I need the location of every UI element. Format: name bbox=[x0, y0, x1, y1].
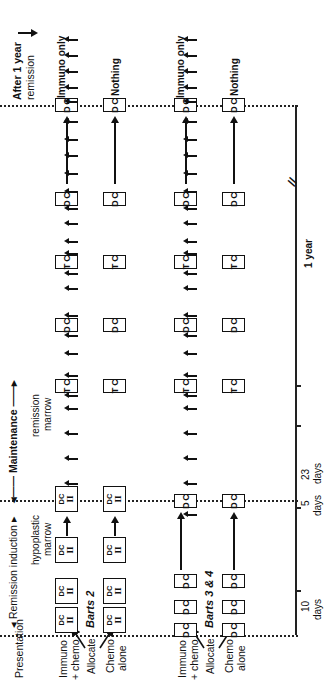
box-dc: DC bbox=[222, 98, 245, 112]
up-arrow-icon bbox=[66, 522, 68, 536]
box-dc-ii: DCII bbox=[55, 486, 78, 512]
box-tc: TC bbox=[222, 255, 245, 269]
box-dc-ii: DCII bbox=[103, 578, 126, 604]
box-dc: DC bbox=[174, 623, 197, 637]
immunotherapy-arrow-icon bbox=[64, 98, 78, 106]
box-dc-ii: DCII bbox=[103, 537, 126, 563]
box-tc: TC bbox=[174, 379, 197, 393]
box-tc: TC bbox=[222, 379, 245, 393]
immuno-only-label: Immuno only bbox=[175, 36, 186, 98]
immunotherapy-arrow-icon bbox=[64, 455, 78, 463]
immunotherapy-arrow-icon bbox=[183, 350, 197, 358]
timeline-tick bbox=[295, 425, 301, 427]
box-dc: DC bbox=[174, 318, 197, 332]
immunotherapy-arrow-icon bbox=[183, 238, 197, 246]
box-dc: DC bbox=[174, 600, 197, 614]
up-arrow-icon bbox=[180, 518, 182, 570]
box-dc-ii: DCII bbox=[55, 578, 78, 604]
immunotherapy-arrow-icon bbox=[64, 188, 78, 196]
up-arrow-icon bbox=[66, 122, 68, 184]
immunotherapy-arrow-icon bbox=[183, 285, 197, 293]
box-dc-ii: DCII bbox=[103, 607, 126, 633]
nothing-label: Nothing bbox=[229, 58, 240, 96]
box-dc-ii: DCII bbox=[103, 486, 126, 512]
immunotherapy-arrow-icon bbox=[64, 405, 78, 413]
allocate-arrows-icon bbox=[0, 0, 328, 691]
box-dc: DC bbox=[103, 98, 126, 112]
immunotherapy-arrow-icon bbox=[64, 238, 78, 246]
immunotherapy-arrow-icon bbox=[183, 98, 197, 106]
timeline-label-10: 10 bbox=[300, 601, 311, 612]
up-arrow-icon bbox=[114, 122, 116, 184]
up-arrow-icon bbox=[185, 122, 187, 184]
box-tc: TC bbox=[55, 379, 78, 393]
immunotherapy-arrow-icon bbox=[183, 480, 197, 488]
immunotherapy-arrow-icon bbox=[183, 430, 197, 438]
immunotherapy-arrow-icon bbox=[183, 405, 197, 413]
box-tc: TC bbox=[103, 379, 126, 393]
timeline-tick bbox=[295, 385, 301, 387]
immuno-only-label: Immuno only bbox=[56, 36, 67, 98]
immunotherapy-arrow-icon bbox=[64, 205, 78, 213]
box-dc: DC bbox=[222, 318, 245, 332]
immunotherapy-arrow-icon bbox=[64, 350, 78, 358]
box-tc: TC bbox=[103, 255, 126, 269]
immunotherapy-arrow-icon bbox=[183, 372, 197, 380]
immunotherapy-arrow-icon bbox=[183, 220, 197, 228]
immunotherapy-arrow-icon bbox=[64, 372, 78, 380]
immunotherapy-arrow-icon bbox=[183, 188, 197, 196]
immunotherapy-arrow-icon bbox=[64, 270, 78, 278]
timeline-label-23: 23 bbox=[300, 469, 311, 480]
barts34-label: Barts 3 & 4 bbox=[203, 571, 215, 628]
box-dc: DC bbox=[55, 318, 78, 332]
barts2-label: Barts 2 bbox=[84, 591, 96, 628]
immunotherapy-arrow-icon bbox=[183, 270, 197, 278]
timeline-tick bbox=[295, 590, 301, 592]
immunotherapy-arrow-icon bbox=[64, 392, 78, 400]
immunotherapy-arrow-icon bbox=[64, 220, 78, 228]
box-dc: DC bbox=[222, 623, 245, 637]
immunotherapy-arrow-icon bbox=[183, 250, 197, 258]
box-dc: DC bbox=[103, 318, 126, 332]
timeline-tick bbox=[295, 507, 301, 509]
nothing-label: Nothing bbox=[110, 58, 121, 96]
up-arrow-icon bbox=[233, 122, 235, 184]
immunotherapy-arrow-icon bbox=[183, 332, 197, 340]
box-dc: DC bbox=[222, 574, 245, 588]
box-dc: DC bbox=[103, 192, 126, 206]
box-dc: DC bbox=[222, 192, 245, 206]
timeline-label-1-year: 1 year bbox=[303, 239, 314, 268]
immunotherapy-arrow-icon bbox=[64, 312, 78, 320]
immunotherapy-arrow-icon bbox=[64, 332, 78, 340]
up-arrow-icon bbox=[233, 518, 235, 570]
immunotherapy-arrow-icon bbox=[183, 205, 197, 213]
immunotherapy-arrow-icon bbox=[183, 312, 197, 320]
box-dc: DC bbox=[222, 494, 245, 508]
immunotherapy-arrow-icon bbox=[64, 250, 78, 258]
timeline-label-5-days: days bbox=[312, 495, 323, 516]
box-dc: DC bbox=[222, 600, 245, 614]
immunotherapy-arrow-icon bbox=[64, 285, 78, 293]
immunotherapy-arrow-icon bbox=[183, 511, 197, 519]
timeline-label-10-days: days bbox=[312, 599, 323, 620]
timeline-label-5: 5 bbox=[300, 500, 311, 506]
immunotherapy-arrow-icon bbox=[64, 480, 78, 488]
immunotherapy-arrow-icon bbox=[183, 392, 197, 400]
box-dc: DC bbox=[174, 494, 197, 508]
immunotherapy-arrow-icon bbox=[183, 455, 197, 463]
box-dc-ii: DCII bbox=[55, 607, 78, 633]
timeline-label-23-days: days bbox=[312, 463, 323, 484]
immunotherapy-arrow-icon bbox=[64, 430, 78, 438]
box-dc: DC bbox=[174, 574, 197, 588]
up-arrow-icon bbox=[114, 522, 116, 536]
box-dc-ii: DCII bbox=[55, 537, 78, 563]
